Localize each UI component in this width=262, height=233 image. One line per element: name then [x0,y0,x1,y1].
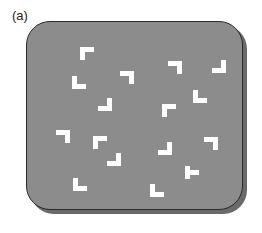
l-shape-bottom-right [158,142,172,155]
l-shape-top-left [80,47,94,60]
l-shape-bottom-right [107,153,121,166]
l-shape-bottom-left [72,76,86,89]
l-shape-bottom-left [73,178,87,191]
l-shape-top-left [93,136,107,149]
t-shape-right [185,166,199,179]
stimulus-panel [26,21,243,210]
l-shape-bottom-left [150,184,164,197]
l-shape-bottom-right [212,60,226,73]
l-shape-bottom-left [193,90,207,103]
l-shape-top-right [120,71,134,84]
figure-label: (a) [12,8,28,23]
l-shape-top-right [204,137,218,150]
l-shape-top-right [56,130,70,143]
l-shape-top-left [162,104,176,117]
l-shape-bottom-right [98,98,112,111]
l-shape-top-right [168,61,182,74]
